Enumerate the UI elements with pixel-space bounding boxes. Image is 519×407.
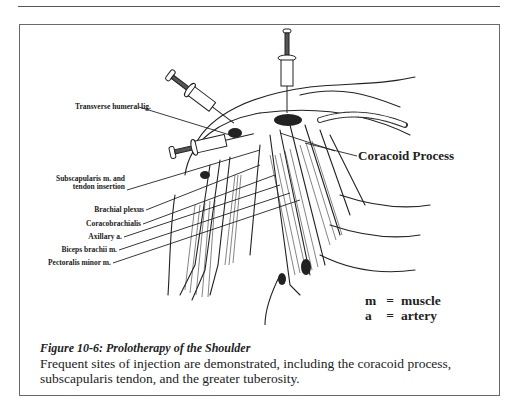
caption-body: Frequent sites of injection are demonstr…	[40, 356, 500, 386]
legend-equals: =	[379, 293, 401, 308]
legend-row-muscle: m = muscle	[365, 293, 441, 308]
label-coracoid-process: Coracoid Process	[358, 148, 454, 164]
caption-title: Figure 10-6: Prolotherapy of the Shoulde…	[40, 341, 500, 355]
syringe-top-icon	[278, 29, 296, 113]
label-subscapularis-line2: tendon insertion	[43, 183, 125, 191]
legend-value: muscle	[401, 293, 441, 308]
label-subscapularis: Subscapularis m. and tendon insertion	[43, 175, 125, 191]
legend-key: a	[365, 308, 379, 323]
label-axillary: Axillary a.	[72, 233, 122, 241]
label-brachial-plexus: Brachial plexus	[82, 206, 144, 214]
label-coracobrachialis: Coracobrachialis	[72, 220, 141, 228]
top-rule	[18, 6, 500, 7]
syringe-diagonal-icon	[164, 67, 239, 129]
label-transverse-humeral: Transverse humeral lig.	[75, 103, 151, 111]
legend-key: m	[365, 293, 379, 308]
legend-row-artery: a = artery	[365, 308, 441, 323]
abbreviation-legend: m = muscle a = artery	[365, 293, 441, 323]
legend-equals: =	[379, 308, 401, 323]
legend-value: artery	[401, 308, 437, 323]
label-pectoralis: Pectoralis minor m.	[30, 259, 111, 267]
figure-frame: Transverse humeral lig. Subscapularis m.…	[19, 24, 500, 396]
figure-caption: Figure 10-6: Prolotherapy of the Shoulde…	[40, 341, 500, 386]
label-biceps: Biceps brachii m.	[40, 246, 117, 254]
